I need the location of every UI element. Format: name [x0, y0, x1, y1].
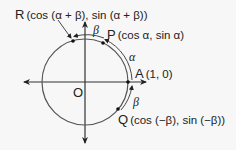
unit-circle-diagram: R(cos (α + β), sin (α + β)) P(cos α, sin… — [0, 0, 236, 150]
label-q: Q(cos (−β), sin (−β)) — [118, 112, 225, 127]
label-beta-bottom: β — [132, 95, 139, 109]
label-alpha: α — [129, 50, 136, 64]
point-p — [101, 41, 105, 45]
point-q — [116, 107, 120, 111]
label-beta-top: β — [92, 23, 99, 37]
point-r — [71, 39, 75, 43]
label-a: A(1, 0) — [135, 66, 173, 81]
label-origin: O — [73, 85, 83, 100]
point-a — [126, 80, 130, 84]
label-p: P(cos α, sin α) — [107, 27, 184, 42]
r-leader-line — [58, 20, 71, 38]
arc-alpha — [105, 40, 132, 81]
arc-beta-top — [74, 35, 104, 38]
label-r: R(cos (α + β), sin (α + β)) — [15, 7, 148, 22]
arc-beta-bottom — [121, 86, 132, 110]
